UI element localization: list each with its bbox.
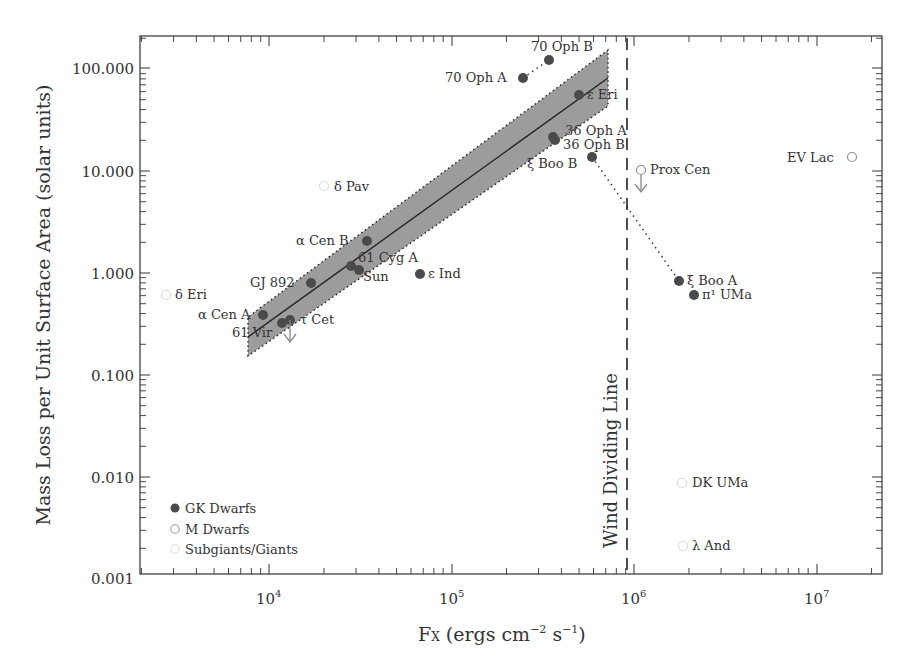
wind-dividing-label: Wind Dividing Line: [600, 373, 621, 548]
point-70-oph-b: [544, 55, 554, 65]
point-gj-892: [306, 278, 316, 288]
fit-line: [248, 78, 608, 337]
y-tick-100: 100.000: [72, 60, 134, 78]
legend-marker-m: [171, 525, 179, 533]
point-lambda-and: [679, 542, 688, 551]
svg-text:106: 106: [621, 588, 646, 608]
point-xi-boo-b: [587, 152, 597, 162]
y-tick-10: 10.000: [82, 163, 135, 181]
point-prox-cen: [637, 166, 646, 175]
plot-frame: [140, 36, 882, 574]
label-70-oph-a: 70 Oph A: [445, 70, 507, 85]
label-eps-eri: ε Eri: [587, 87, 618, 102]
point-ev-lac: [848, 153, 857, 162]
label-61-cyg-a: 61 Cyg A: [358, 250, 418, 265]
x-tick-1e6: 106: [621, 588, 646, 608]
x-tick-1e7: 107: [804, 588, 829, 608]
label-61-vir: 61 Vir: [232, 325, 273, 340]
label-36-oph-b: 36 Oph B: [563, 137, 625, 152]
point-eps-eri: [574, 90, 584, 100]
label-xi-boo-b: ξ Boo B: [527, 156, 577, 171]
point-xi-boo-a: [674, 276, 684, 286]
y-tick-0.1: 0.100: [91, 367, 134, 385]
legend-label-giants: Subgiants/Giants: [185, 542, 298, 557]
legend-label-gk: GK Dwarfs: [185, 501, 256, 516]
svg-text:107: 107: [804, 588, 829, 608]
label-alpha-cen-a: α Cen A: [198, 307, 251, 322]
label-pi1-uma: π¹ UMa: [702, 287, 752, 302]
label-70-oph-b: 70 Oph B: [531, 39, 593, 54]
svg-text:104: 104: [256, 588, 281, 608]
y-tick-0.001: 0.001: [91, 570, 134, 588]
x-tick-1e4: 104: [256, 588, 281, 608]
label-sun: Sun: [363, 269, 389, 284]
point-labels: 70 Oph B 70 Oph A ε Eri 36 Oph A 36 Oph …: [175, 39, 834, 553]
legend-label-m: M Dwarfs: [185, 522, 249, 537]
y-axis-title: Mass Loss per Unit Surface Area (solar u…: [32, 85, 54, 526]
point-36-oph-b: [550, 135, 560, 145]
point-delta-pav: [320, 182, 329, 191]
label-ev-lac: EV Lac: [787, 150, 834, 165]
y-tick-0.01: 0.010: [91, 469, 134, 487]
svg-text:105: 105: [439, 588, 464, 608]
legend: GK Dwarfs M Dwarfs Subgiants/Giants: [171, 501, 299, 557]
upper-limit-arrow-prox-cen: [635, 175, 647, 192]
y-axis-minor-ticks: [140, 38, 882, 548]
label-prox-cen: Prox Cen: [650, 162, 711, 177]
y-tick-1: 1.000: [91, 265, 134, 283]
label-eps-ind: ε Ind: [428, 266, 461, 281]
point-eps-ind: [415, 269, 425, 279]
point-alpha-cen-b: [362, 236, 372, 246]
label-dk-uma: DK UMa: [692, 475, 749, 490]
point-dk-uma: [678, 479, 687, 488]
label-delta-eri: δ Eri: [175, 287, 207, 302]
x-axis-title: FX (ergs cm−2 s−1): [418, 623, 586, 645]
legend-marker-giants: [171, 545, 179, 553]
fit-confidence-band: [248, 50, 608, 356]
label-xi-boo-a: ξ Boo A: [687, 273, 738, 288]
point-alpha-cen-a: [258, 310, 268, 320]
x-axis-minor-ticks: [141, 36, 871, 574]
point-delta-eri: [162, 291, 171, 300]
legend-marker-gk: [171, 504, 180, 513]
label-alpha-cen-b: α Cen B: [296, 233, 349, 248]
point-pi1-uma: [689, 290, 699, 300]
label-lambda-and: λ And: [692, 538, 730, 553]
chart: Wind Dividing Line 100.000 10.000 1.000 …: [0, 0, 912, 668]
label-gj-892: GJ 892: [250, 275, 295, 290]
label-36-oph-a: 36 Oph A: [565, 123, 627, 138]
x-tick-1e5: 105: [439, 588, 464, 608]
point-70-oph-a: [518, 73, 528, 83]
label-tau-cet: τ Cet: [300, 312, 335, 327]
label-delta-pav: δ Pav: [334, 179, 370, 194]
